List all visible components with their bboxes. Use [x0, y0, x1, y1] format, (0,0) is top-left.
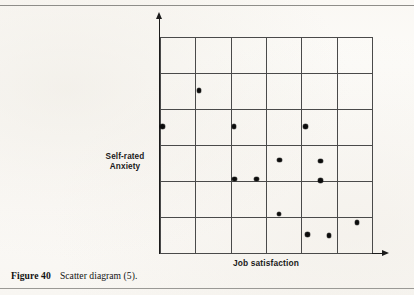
data-point	[277, 158, 282, 163]
data-point	[232, 124, 237, 129]
gridline-vertical	[231, 37, 232, 253]
gridline-vertical	[160, 37, 161, 253]
gridline-horizontal	[160, 253, 372, 254]
figure-caption-text: Scatter diagram (5).	[60, 270, 137, 281]
gridline-vertical	[337, 37, 338, 253]
x-axis-title: Job satisfaction	[160, 258, 372, 268]
gridline-vertical	[372, 37, 373, 253]
scatter-diagram-figure: Self-rated Anxiety Job satisfaction	[0, 0, 414, 295]
gridline-vertical	[195, 37, 196, 253]
y-axis-title-line-2: Anxiety	[110, 162, 140, 171]
data-point	[327, 233, 332, 238]
y-axis-title-line-1: Self-rated	[106, 152, 145, 161]
data-point	[355, 220, 360, 225]
gridline-vertical	[301, 37, 302, 253]
data-point	[277, 212, 282, 217]
data-point	[318, 159, 323, 164]
figure-caption: Figure 40Scatter diagram (5).	[11, 270, 137, 281]
data-point	[160, 124, 165, 129]
data-point	[303, 124, 308, 129]
data-point	[318, 178, 323, 183]
data-point	[305, 232, 310, 237]
plot-grid	[160, 37, 372, 253]
data-point	[197, 88, 202, 93]
gridline-vertical	[266, 37, 267, 253]
y-axis-title: Self-rated Anxiety	[94, 152, 156, 173]
x-axis-arrow-icon	[382, 250, 389, 256]
y-axis-arrow-icon	[156, 12, 162, 19]
figure-number: Figure 40	[11, 270, 51, 281]
